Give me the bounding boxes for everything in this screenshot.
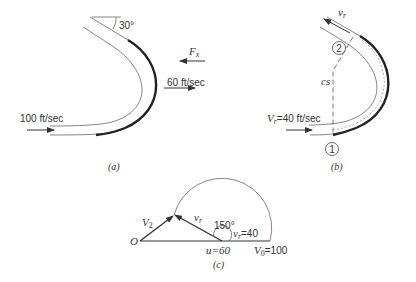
figure-canvas: 30° Fx 60 ft/sec 100 ft/sec (a) vr 2 cs … (0, 0, 416, 282)
inlet-velocity-label: 100 ft/sec (20, 113, 63, 124)
figure-a-vane (50, 17, 156, 135)
angle-150-label: 150° (214, 220, 235, 231)
v0-label: V0=100 (254, 244, 288, 258)
exit-velocity-label: 60 ft/sec (167, 77, 205, 88)
section-2-label: 2 (336, 43, 342, 54)
u-label: u=60 (206, 244, 230, 256)
v2-label: V2 (142, 216, 153, 230)
caption-a: (a) (108, 161, 120, 173)
vr-value-label: vr=40 (233, 227, 258, 241)
angle-arc (113, 17, 116, 29)
section-1-label: 1 (329, 144, 335, 155)
vane-blade (96, 40, 156, 135)
vr-label: vr (194, 211, 203, 225)
force-label: Fx (188, 45, 200, 59)
angle-30-label: 30° (119, 20, 134, 31)
relative-velocity-arrow (324, 19, 350, 33)
relative-velocity-label: vr (338, 6, 347, 20)
control-surface-label: cs (321, 75, 330, 87)
caption-b: (b) (331, 161, 343, 173)
inlet-velocity-label-b: Vr=40 ft/sec (267, 112, 321, 126)
origin-label: O (130, 235, 138, 247)
caption-c: (c) (213, 259, 225, 271)
